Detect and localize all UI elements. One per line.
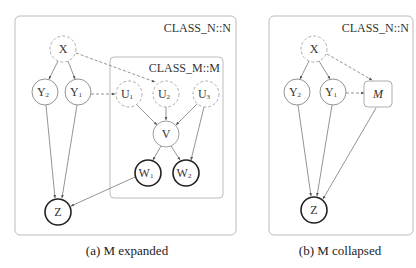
edge-w1-z [71,177,135,206]
edge-v-w2 [171,146,180,160]
edge-y2-z [46,105,55,198]
panel-b-m-collapsed: CLASS_N::N X Y2 Y1 M Z [269,16,413,258]
node-u1: U1 [116,81,142,107]
node-z: Z [45,199,71,225]
panel-a-m-expanded: CLASS_N::N CLASS_M::M X Y2 [15,16,236,258]
node-w2: W2 [173,160,199,186]
svg-text:Z: Z [310,203,317,217]
caption-a: (a) M expanded [86,243,169,258]
svg-text:X: X [310,42,319,56]
node-m: M [364,81,392,107]
node-v: V [153,121,179,147]
svg-text:M: M [372,87,384,101]
class-m-label: CLASS_M::M [149,61,221,75]
svg-text:V: V [162,127,171,141]
edge-x-y2 [300,61,309,79]
node-y1: Y1 [320,79,346,105]
edge-u3-v [176,104,197,125]
edge-u3-w2 [191,107,204,160]
edge-x-y2 [49,61,58,79]
node-z: Z [301,197,327,223]
class-n-label: CLASS_N::N [164,21,232,35]
edge-y1-z [317,105,332,196]
edges [298,54,376,199]
edge-x-y1 [319,61,330,79]
node-x: X [301,36,327,62]
edge-v-w1 [153,146,161,160]
edge-x-y1 [68,61,75,79]
node-y2: Y2 [284,79,310,105]
edge-u1-v [137,105,157,125]
edge-m-z [323,108,376,199]
node-u2: U2 [153,81,179,107]
edge-y2-z [298,105,311,196]
class-n-box [269,16,413,235]
edge-x-m [327,54,372,80]
svg-text:Z: Z [54,205,61,219]
edge-y1-z [62,105,77,198]
svg-text:X: X [59,42,68,56]
node-y1: Y1 [65,79,91,105]
node-u3: U3 [193,81,219,107]
node-w1: W1 [135,160,161,186]
diagram-canvas: CLASS_N::N CLASS_M::M X Y2 [0,0,416,268]
node-y2: Y2 [32,79,58,105]
caption-b: (b) M collapsed [299,243,382,258]
node-x: X [50,36,76,62]
class-n-label: CLASS_N::N [342,21,410,35]
